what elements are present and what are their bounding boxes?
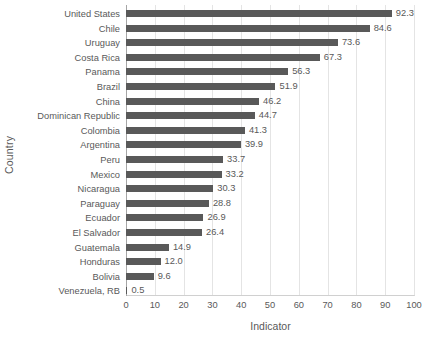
category-label: Colombia	[16, 126, 120, 136]
bar-value-label: 30.3	[217, 181, 235, 196]
category-label: Brazil	[16, 82, 120, 92]
bar-value-label: 73.6	[342, 35, 360, 50]
category-label: Costa Rica	[16, 53, 120, 63]
bar-row: 84.6	[126, 21, 414, 36]
bar	[126, 244, 169, 251]
bar	[126, 98, 259, 105]
bar-value-label: 67.3	[324, 50, 342, 65]
bar-value-label: 39.9	[245, 137, 263, 152]
bar-row: 92.3	[126, 6, 414, 21]
bar	[126, 258, 161, 265]
bar	[126, 25, 370, 32]
bar-row: 26.4	[126, 225, 414, 240]
category-label: Honduras	[16, 257, 120, 267]
bar	[126, 112, 255, 119]
bar-value-label: 44.7	[259, 108, 277, 123]
category-label: China	[16, 97, 120, 107]
x-tick-label: 70	[322, 300, 332, 310]
category-label: Paraguay	[16, 199, 120, 209]
bar-value-label: 12.0	[165, 254, 183, 269]
bar-row: 30.3	[126, 181, 414, 196]
bar-row: 26.9	[126, 210, 414, 225]
bar-row: 44.7	[126, 108, 414, 123]
x-axis-tick-labels: 0102030405060708090100	[126, 300, 415, 314]
x-tick-label: 40	[236, 300, 246, 310]
bar-value-label: 56.3	[292, 64, 310, 79]
category-label: Argentina	[16, 140, 120, 150]
bar-value-label: 28.8	[213, 196, 231, 211]
x-tick-label: 30	[207, 300, 217, 310]
bar-row: 67.3	[126, 50, 414, 65]
category-label: Mexico	[16, 170, 120, 180]
x-tick-label: 90	[380, 300, 390, 310]
bar-row: 0.5	[126, 283, 414, 298]
bar	[126, 287, 127, 294]
category-label: Bolivia	[16, 272, 120, 282]
bar	[126, 10, 392, 17]
bar	[126, 141, 241, 148]
bar	[126, 273, 154, 280]
category-label: United States	[16, 9, 120, 19]
bar	[126, 229, 202, 236]
category-label: Venezuela, RB	[16, 286, 120, 296]
bar-row: 33.7	[126, 152, 414, 167]
bar-row: 12.0	[126, 254, 414, 269]
bar	[126, 83, 275, 90]
x-tick-label: 20	[178, 300, 188, 310]
x-tick-label: 60	[294, 300, 304, 310]
bar-row: 41.3	[126, 123, 414, 138]
bar	[126, 127, 245, 134]
bar-row: 73.6	[126, 35, 414, 50]
bar	[126, 68, 288, 75]
category-label: Ecuador	[16, 213, 120, 223]
x-tick-label: 100	[406, 300, 422, 310]
bar	[126, 185, 213, 192]
category-label: El Salvador	[16, 228, 120, 238]
category-label: Chile	[16, 24, 120, 34]
category-label: Guatemala	[16, 243, 120, 253]
bar-value-label: 41.3	[249, 123, 267, 138]
bar-value-label: 14.9	[173, 240, 191, 255]
bar-row: 51.9	[126, 79, 414, 94]
bar	[126, 214, 203, 221]
category-label: Uruguay	[16, 38, 120, 48]
bar	[126, 200, 209, 207]
category-label: Panama	[16, 67, 120, 77]
bar-row: 33.2	[126, 167, 414, 182]
bar-row: 14.9	[126, 240, 414, 255]
category-label: Dominican Republic	[16, 111, 120, 121]
gridline	[414, 5, 415, 295]
bar-row: 39.9	[126, 137, 414, 152]
bar-value-label: 92.3	[396, 6, 414, 21]
y-axis-category-labels: United StatesChileUruguayCosta RicaPanam…	[16, 5, 120, 295]
bar	[126, 39, 338, 46]
category-label: Nicaragua	[16, 184, 120, 194]
bar-value-label: 0.5	[131, 283, 144, 298]
x-tick-label: 80	[351, 300, 361, 310]
x-tick-label: 0	[123, 300, 128, 310]
bar	[126, 54, 320, 61]
y-axis-title-label: Country	[3, 136, 15, 174]
bar-row: 9.6	[126, 269, 414, 284]
bar-value-label: 46.2	[263, 94, 281, 109]
bar-value-label: 33.7	[227, 152, 245, 167]
bar-value-label: 84.6	[374, 21, 392, 36]
bar-value-label: 26.9	[207, 210, 225, 225]
bar-value-label: 26.4	[206, 225, 224, 240]
bar-row: 46.2	[126, 94, 414, 109]
bar-row: 56.3	[126, 64, 414, 79]
bar-value-label: 33.2	[226, 167, 244, 182]
category-label: Peru	[16, 155, 120, 165]
bar-value-label: 51.9	[279, 79, 297, 94]
plot-area: 92.384.673.667.356.351.946.244.741.339.9…	[126, 5, 415, 296]
bar-row: 28.8	[126, 196, 414, 211]
x-tick-label: 10	[150, 300, 160, 310]
bar	[126, 156, 223, 163]
x-axis-title: Indicator	[126, 320, 415, 332]
bar-chart: Country United StatesChileUruguayCosta R…	[0, 0, 436, 346]
bar-value-label: 9.6	[158, 269, 171, 284]
bar	[126, 171, 222, 178]
x-tick-label: 50	[265, 300, 275, 310]
